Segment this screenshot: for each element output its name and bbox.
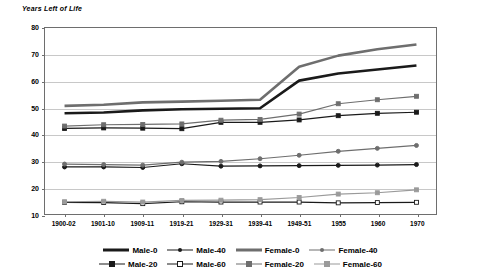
data-point [180,160,184,164]
data-point [336,114,340,118]
legend-label: Male-0 [132,246,157,255]
data-point [414,188,418,192]
legend-marker [109,261,115,267]
series-male-20 [63,110,419,130]
x-tick-mark [143,214,144,217]
x-tick-mark [379,214,380,217]
data-point [141,200,145,204]
x-tick-label: 1970 [394,220,440,227]
data-point [63,162,67,166]
y-tick-label: 30 [19,158,39,165]
data-point [102,123,106,127]
data-point [375,98,379,102]
data-point [63,124,67,128]
series-male-60 [63,200,419,206]
legend-marker [324,261,330,267]
legend-swatch-male-0 [103,245,129,255]
legend-swatch-female-40 [309,245,335,255]
legend-marker [178,248,182,252]
legend-swatch-female-60 [314,259,340,269]
x-tick-mark [104,214,105,217]
legend-line [103,249,129,252]
data-point [219,159,223,163]
data-point [297,153,301,157]
data-point [414,110,418,114]
legend-label: Female-20 [265,260,304,269]
y-tick-label: 20 [19,185,39,192]
legend-label: Female-40 [338,246,377,255]
series-line [65,145,417,165]
data-point [141,122,145,126]
x-tick-mark [340,214,341,217]
y-tick-label: 50 [19,104,39,111]
data-point [375,146,379,150]
legend-marker [246,261,252,267]
data-point [414,143,418,147]
chart-legend: Male-0Male-40Female-0Female-40 Male-20Ma… [44,243,437,271]
series-female-0 [65,44,417,105]
legend-item-female-40[interactable]: Female-40 [309,245,377,255]
chart-axis-title: Years Left of Life [22,5,82,12]
y-tick-label: 10 [19,212,39,219]
data-point [297,196,301,200]
data-point [336,102,340,106]
data-point [414,94,418,98]
y-tick-mark [42,216,45,217]
data-point [336,163,340,167]
data-point [258,117,262,121]
data-point [102,163,106,167]
data-point [375,191,379,195]
legend-row-1: Male-0Male-40Female-0Female-40 [44,243,437,257]
legend-row-2: Male-20Male-60Female-20Female-60 [44,257,437,271]
chart-container: Years Left of Life 8070605040302010 1900… [0,0,478,279]
data-point [219,164,223,168]
data-point [375,201,379,205]
x-tick-mark [300,214,301,217]
legend-label: Male-40 [196,246,225,255]
y-tick-label: 60 [19,77,39,84]
legend-swatch-female-0 [236,245,262,255]
series-line [65,44,417,105]
legend-item-male-60[interactable]: Male-60 [167,259,225,269]
legend-item-male-20[interactable]: Male-20 [99,259,157,269]
data-point [219,198,223,202]
data-point [336,149,340,153]
legend-swatch-male-60 [167,259,193,269]
data-point [258,198,262,202]
data-point [297,112,301,116]
data-point [414,163,418,167]
series-female-40 [63,143,419,167]
legend-swatch-male-40 [167,245,193,255]
series-male-40 [63,162,419,170]
data-point [336,192,340,196]
legend-label: Female-60 [343,260,382,269]
legend-item-female-60[interactable]: Female-60 [314,259,382,269]
data-point [141,163,145,167]
legend-line [236,249,262,252]
data-point [102,199,106,203]
data-point [219,118,223,122]
legend-marker [177,261,183,267]
series-line [65,65,417,113]
x-tick-mark [261,214,262,217]
data-point [258,157,262,161]
data-point [180,127,184,131]
data-point [180,198,184,202]
legend-item-male-40[interactable]: Male-40 [167,245,225,255]
legend-item-female-20[interactable]: Female-20 [236,259,304,269]
series-line [65,112,417,128]
data-point [297,118,301,122]
data-point [336,201,340,205]
legend-swatch-male-20 [99,259,125,269]
plot-area [44,27,437,215]
legend-item-male-0[interactable]: Male-0 [103,245,157,255]
data-point [258,164,262,168]
data-point [375,163,379,167]
y-tick-label: 80 [19,24,39,31]
data-point [180,122,184,126]
data-point [297,164,301,168]
legend-label: Male-60 [196,260,225,269]
data-point [414,200,418,204]
x-tick-mark [183,214,184,217]
legend-item-female-0[interactable]: Female-0 [236,245,300,255]
